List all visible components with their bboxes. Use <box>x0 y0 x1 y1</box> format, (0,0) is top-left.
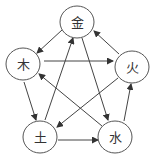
diagram-canvas: 金木火土水 <box>0 0 157 166</box>
arrow-huo-to-tu <box>57 78 118 127</box>
arrow-jin-to-shui <box>82 38 108 120</box>
arrow-shui-to-mu <box>39 74 102 126</box>
node-jin: 金 <box>60 6 94 38</box>
arrow-shui-to-huo <box>124 84 131 121</box>
node-label: 水 <box>109 130 122 145</box>
node-mu: 木 <box>6 48 40 80</box>
node-label: 金 <box>71 15 84 30</box>
node-tu: 土 <box>23 121 57 153</box>
node-shui: 水 <box>98 121 132 153</box>
node-huo: 火 <box>115 51 149 83</box>
arrow-jin-to-mu <box>37 30 62 53</box>
arrow-mu-to-tu <box>24 82 36 120</box>
five-elements-diagram: 金木火土水 <box>0 0 157 166</box>
node-label: 木 <box>17 57 30 72</box>
arrow-huo-to-jin <box>94 31 119 54</box>
node-label: 土 <box>34 130 47 145</box>
arrow-tu-to-jin <box>45 38 73 120</box>
node-label: 火 <box>126 60 139 75</box>
